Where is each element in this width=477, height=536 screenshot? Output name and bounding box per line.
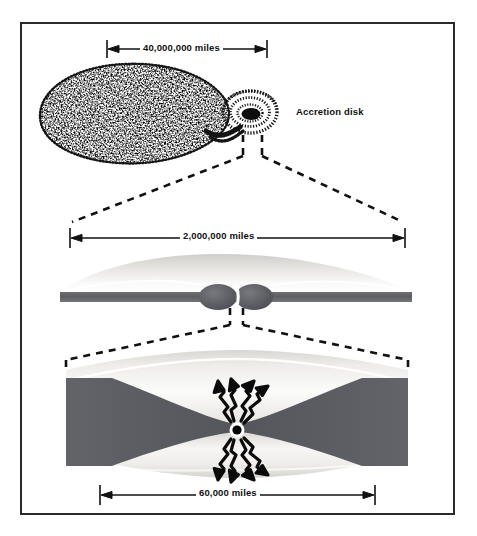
dimension-label-bottom: 60,000 miles (196, 487, 260, 498)
accretion-disk-spiral (223, 91, 277, 133)
dimension-label-middle: 2,000,000 miles (180, 230, 257, 241)
panel-middle-disk (60, 254, 412, 310)
panel-bottom-inner-disk (66, 350, 408, 482)
diagram-canvas (0, 0, 477, 536)
accretion-disk-label: Accretion disk (296, 106, 364, 117)
dimension-label-top: 40,000,000 miles (140, 42, 223, 53)
companion-star (40, 64, 229, 164)
